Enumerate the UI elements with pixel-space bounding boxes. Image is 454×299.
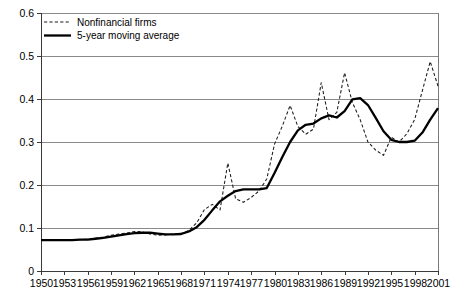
chart-legend: Nonfinancial firms5-year moving average: [44, 17, 180, 42]
gridlines-group: [41, 14, 438, 272]
x-axis-tick-label: 1953: [53, 277, 77, 289]
x-axis-tick-label: 1992: [357, 277, 381, 289]
line-chart: 00.10.20.30.40.50.6 19501953195619591962…: [0, 0, 454, 299]
x-axis-tick-label: 1974: [217, 277, 241, 289]
x-axis-tick-label: 1977: [240, 277, 264, 289]
y-axis-tick-label: 0.3: [19, 136, 34, 148]
x-axis-tick-label: 1968: [170, 277, 194, 289]
x-axis-tick-label: 1980: [264, 277, 288, 289]
y-axis-tick-label: 0: [28, 265, 34, 277]
data-series-group: [41, 62, 438, 240]
x-axis-tick-label: 1986: [310, 277, 334, 289]
x-axis-tick-label: 1956: [77, 277, 101, 289]
chart-container: 00.10.20.30.40.50.6 19501953195619591962…: [0, 0, 454, 299]
x-axis-tick-label: 1971: [193, 277, 217, 289]
x-axis-tick-label: 1965: [147, 277, 171, 289]
y-axis-tick-label: 0.6: [19, 7, 34, 19]
x-axis-tick-label: 2001: [427, 277, 451, 289]
x-axis-labels-group: 1950195319561959196219651968197119741977…: [30, 277, 451, 289]
series-line-dashed: [41, 62, 438, 240]
y-axis-tick-label: 0.2: [19, 179, 34, 191]
x-axis-tick-label: 1983: [287, 277, 311, 289]
y-axis-tick-label: 0.4: [19, 93, 34, 105]
y-axis-tick-label: 0.5: [19, 50, 34, 62]
y-axis-tick-label: 0.1: [19, 222, 34, 234]
legend-item-label: Nonfinancial firms: [77, 17, 156, 28]
legend-item-label: 5-year moving average: [77, 30, 180, 41]
x-axis-tick-label: 1998: [404, 277, 428, 289]
x-axis-tick-label: 1962: [123, 277, 147, 289]
y-axis-labels-group: 00.10.20.30.40.50.6: [19, 7, 41, 277]
series-line-solid: [41, 98, 438, 240]
x-axis-tick-label: 1959: [100, 277, 124, 289]
x-axis-tick-label: 1989: [334, 277, 358, 289]
x-axis-tick-label: 1950: [30, 277, 54, 289]
x-axis-tick-label: 1995: [380, 277, 404, 289]
